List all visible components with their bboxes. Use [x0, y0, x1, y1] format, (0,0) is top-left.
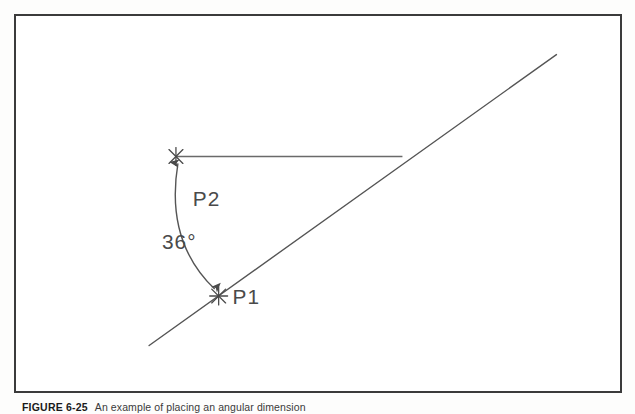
point-label-p2: P2 — [193, 187, 221, 210]
figure-page: P2 36° P1 FIGURE 6-25An example of placi… — [0, 0, 635, 414]
cad-drawing-canvas: P2 36° P1 — [16, 16, 620, 391]
figure-caption-label: FIGURE 6-25 — [22, 401, 88, 413]
point-label-p1: P1 — [233, 285, 261, 308]
figure-caption: FIGURE 6-25An example of placing an angu… — [22, 401, 622, 414]
angle-value-label: 36° — [162, 231, 197, 254]
point-marker-p1 — [210, 287, 228, 305]
figure-panel: P2 36° P1 — [14, 14, 622, 393]
angle-dimension-arc — [175, 163, 214, 289]
figure-caption-text: An example of placing an angular dimensi… — [88, 401, 306, 413]
